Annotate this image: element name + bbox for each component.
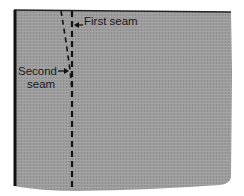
- fabric-panel: [14, 10, 232, 191]
- first-seam-label: First seam: [84, 15, 138, 27]
- second-seam-label-line2: seam: [27, 78, 55, 90]
- seam-diagram: [0, 0, 244, 196]
- second-seam-label-line1: Second: [18, 65, 57, 77]
